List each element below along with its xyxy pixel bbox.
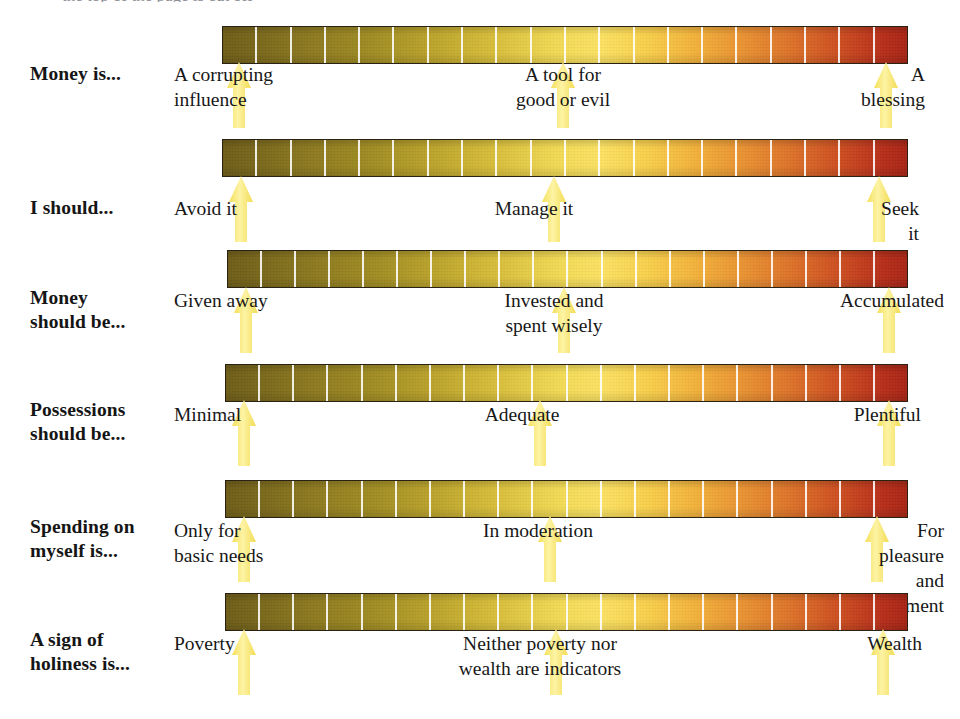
row-question-label: Money is...	[30, 62, 121, 86]
chart-canvas: the top of the page is cut off Money is.…	[0, 0, 960, 719]
scale-label-center: Manage it	[495, 196, 574, 221]
spectrum-gradient	[228, 251, 907, 287]
scale-label-left: Avoid it	[174, 196, 237, 221]
scale-label-right: Wealth	[867, 631, 922, 656]
spectrum-bar	[225, 480, 908, 518]
scale-label-center: Invested and spent wisely	[504, 288, 603, 338]
row-question-label: Money should be...	[30, 286, 126, 334]
row-question-label: I should...	[30, 196, 113, 220]
scale-label-right: Seek it	[878, 196, 919, 246]
spectrum-bar	[225, 364, 908, 402]
scale-label-center: A tool for good or evil	[516, 62, 610, 112]
scale-label-left: Given away	[174, 288, 268, 313]
spectrum-gradient	[223, 140, 907, 176]
spectrum-gradient	[226, 365, 907, 401]
row-question-label: Spending on myself is...	[30, 515, 135, 563]
scale-label-center: Adequate	[485, 402, 560, 427]
scale-label-left: A corrupting influence	[174, 62, 273, 112]
scale-label-center: Neither poverty nor wealth are indicator…	[459, 631, 621, 681]
spectrum-gradient	[226, 481, 907, 517]
spectrum-bar	[222, 139, 908, 177]
spectrum-bar	[225, 593, 908, 631]
scale-label-left: Poverty	[174, 631, 235, 656]
spectrum-gradient	[223, 27, 907, 63]
scale-label-right: Accumulated	[840, 288, 944, 313]
spectrum-gradient	[226, 594, 907, 630]
scale-label-left: Only for basic needs	[174, 518, 263, 568]
row-question-label: A sign of holiness is...	[30, 628, 130, 676]
scale-label-center: In moderation	[483, 518, 593, 543]
scale-label-right: Plentiful	[854, 402, 921, 427]
clipped-header-text: the top of the page is cut off	[0, 0, 960, 2]
scale-label-left: Minimal	[174, 402, 241, 427]
spectrum-bar	[222, 26, 908, 64]
spectrum-bar	[227, 250, 908, 288]
scale-label-right: A blessing	[861, 62, 925, 112]
row-question-label: Possessions should be...	[30, 398, 126, 446]
